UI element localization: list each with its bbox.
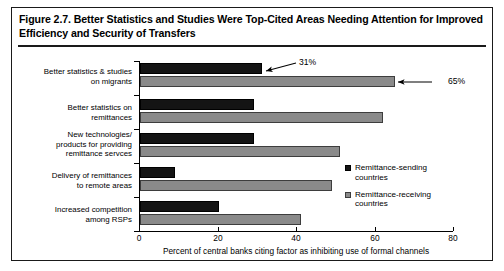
chart-plot-area: 0 20 40 60 80 Better statistics & studie… <box>0 0 504 271</box>
annotation-31-percent: 31% <box>299 57 316 67</box>
x-tick-60 <box>375 227 376 231</box>
category-label-0: Better statistics & studies on migrants <box>12 67 132 86</box>
x-tick-20 <box>218 227 219 231</box>
category-label-line: remittances <box>12 113 132 123</box>
legend-label-line: Remittance-sending <box>355 163 427 172</box>
category-tick <box>134 129 139 130</box>
category-label-line: New technologies/ <box>12 130 132 140</box>
chart-legend: Remittance-sending countries Remittance-… <box>345 163 477 216</box>
category-tick <box>134 197 139 198</box>
x-tick-80 <box>453 227 454 231</box>
legend-item-sending: Remittance-sending countries <box>345 163 477 183</box>
x-tick-label-60: 60 <box>360 233 390 244</box>
x-tick-label-40: 40 <box>281 233 311 244</box>
category-label-line: remittance servces <box>12 149 132 159</box>
legend-label-line: countries <box>355 199 388 208</box>
x-tick-label-0: 0 <box>124 233 154 244</box>
legend-label-line: countries <box>355 173 388 182</box>
bar-receiving-2 <box>140 146 340 157</box>
category-label-line: to remote areas <box>12 181 132 191</box>
category-label-2: New technologies/ products for providing… <box>12 130 132 159</box>
x-axis-title: Percent of central banks citing factor a… <box>99 246 453 256</box>
legend-swatch-receiving-icon <box>345 192 351 198</box>
category-tick <box>134 231 139 232</box>
bar-receiving-1 <box>140 112 383 123</box>
legend-swatch-sending-icon <box>345 165 351 171</box>
legend-item-receiving: Remittance-receiving countries <box>345 190 477 210</box>
category-label-line: products for providing <box>12 140 132 150</box>
category-tick <box>134 95 139 96</box>
category-tick <box>134 61 139 62</box>
category-label-line: Better statistics & studies <box>12 67 132 77</box>
bar-sending-2 <box>140 133 254 144</box>
legend-label-line: Remittance-receiving <box>355 190 431 199</box>
category-label-line: on migrants <box>12 77 132 87</box>
bar-receiving-0 <box>140 76 395 87</box>
x-tick-label-20: 20 <box>203 233 233 244</box>
category-label-1: Better statistics on remittances <box>12 103 132 122</box>
bar-receiving-3 <box>140 180 332 191</box>
x-tick-label-80: 80 <box>438 233 468 244</box>
bar-sending-4 <box>140 201 219 212</box>
bar-sending-3 <box>140 167 175 178</box>
x-tick-0 <box>139 227 140 231</box>
annotation-65-percent: 65% <box>448 76 465 86</box>
figure-container: Figure 2.7. Better Statistics and Studie… <box>0 0 504 271</box>
bar-sending-0 <box>140 63 262 74</box>
legend-label-sending: Remittance-sending countries <box>355 163 427 183</box>
bar-sending-1 <box>140 99 254 110</box>
category-label-4: Increased competition among RSPs <box>12 205 132 224</box>
x-tick-40 <box>296 227 297 231</box>
category-label-line: among RSPs <box>12 215 132 225</box>
category-label-line: Delivery of remittances <box>12 171 132 181</box>
category-label-3: Delivery of remittances to remote areas <box>12 171 132 190</box>
x-axis-line <box>139 231 453 232</box>
category-label-line: Better statistics on <box>12 103 132 113</box>
bar-receiving-4 <box>140 214 301 225</box>
legend-label-receiving: Remittance-receiving countries <box>355 190 431 210</box>
category-label-line: Increased competition <box>12 205 132 215</box>
category-tick <box>134 163 139 164</box>
